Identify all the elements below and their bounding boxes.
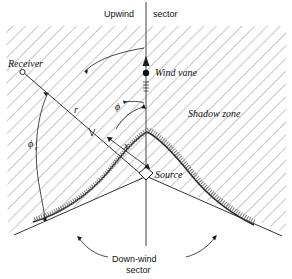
x-distance-label: x bbox=[123, 140, 129, 151]
shadow-zone-label: Shadow zone bbox=[188, 108, 241, 119]
wind-vane-label: Wind vane bbox=[155, 67, 197, 78]
downwind-sector-label-line1: Down-wind bbox=[112, 254, 157, 264]
receiver-label: Receiver bbox=[7, 58, 43, 69]
phi-label: ϕ bbox=[115, 101, 120, 112]
wind-vane-dot bbox=[143, 70, 149, 76]
receiver-marker bbox=[20, 69, 25, 74]
downwind-sector-label-line2: sector bbox=[126, 265, 151, 275]
source-label: Source bbox=[155, 169, 183, 180]
svg-text:c: c bbox=[35, 144, 38, 151]
acoustic-shadow-zone-figure: Upwind sector Receiver Wind vane Shadow … bbox=[0, 0, 292, 279]
upwind-label: Upwind bbox=[104, 9, 134, 19]
svg-text:ϕ: ϕ bbox=[28, 138, 33, 149]
upwind-sector-label: sector bbox=[153, 9, 178, 19]
radius-label: r bbox=[74, 104, 78, 115]
